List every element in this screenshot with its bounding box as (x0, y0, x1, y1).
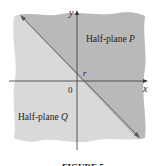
line-r-label: r (83, 68, 87, 78)
origin-label: 0 (68, 85, 73, 95)
y-axis-arrow-icon (75, 10, 79, 15)
half-plane-diagram: y x 0 r Half-plane P Half-plane Q FIGURE… (0, 0, 159, 166)
y-axis-label: y (68, 7, 74, 18)
x-axis-label: x (142, 83, 148, 94)
figure-caption: FIGURE 5 (62, 162, 104, 166)
half-plane-q-label: Half-plane Q (18, 112, 68, 122)
half-plane-p-label: Half-plane P (86, 34, 135, 44)
